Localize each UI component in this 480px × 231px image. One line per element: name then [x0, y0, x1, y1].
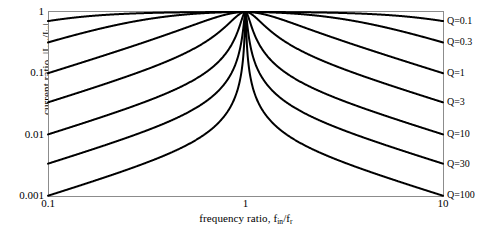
chart-container: current ratio, |Iout/Iin| frequency rati… [0, 0, 480, 231]
plot-area [0, 0, 480, 231]
